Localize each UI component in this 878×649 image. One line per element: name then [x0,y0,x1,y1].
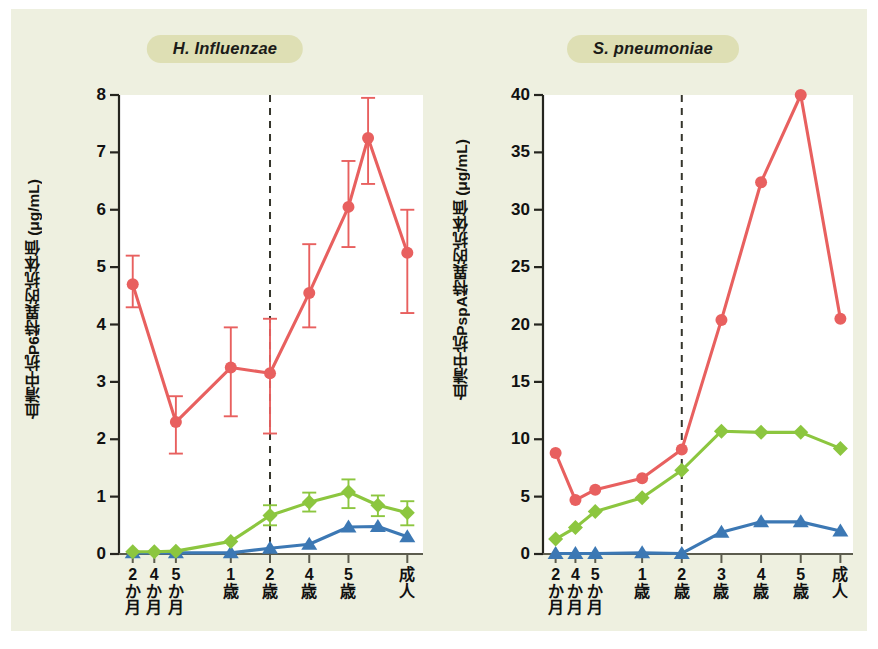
x-tick-label-part: 歳 [223,584,239,601]
x-tick-label: 5か月 [587,567,603,617]
x-tick-label: 成人 [399,567,415,600]
x-tick-label-part: 1 [634,567,650,584]
x-tick-label: 4歳 [301,567,317,600]
x-tick-label-part: 4 [567,567,583,584]
data-point-circle [636,472,648,484]
x-tick-label-part: 歳 [262,584,278,601]
x-tick-label-part: 歳 [674,584,690,601]
data-point-circle [755,176,767,188]
y-tick-label: 40 [500,85,530,105]
x-tick-label-part: 4 [146,567,162,584]
data-point-circle [342,201,354,213]
x-tick-label: 2歳 [262,567,278,600]
data-point-circle [362,132,374,144]
y-tick-label: 4 [80,315,106,335]
x-tick-label-part: 5 [793,567,809,584]
x-tick-label-part: 歳 [793,584,809,601]
data-point-circle [834,313,846,325]
y-tick-label: 8 [80,85,106,105]
x-tick-label: 3歳 [713,567,729,600]
x-tick-label-part: 1 [223,567,239,584]
x-tick-label: 成人 [832,567,848,600]
plot-area-left: 0123456782か月4か月5か月1歳2歳4歳5歳成人 [11,9,439,631]
y-tick-label: 7 [80,142,106,162]
x-tick-label-part: 3 [713,567,729,584]
x-tick-label-part: か [587,584,603,601]
x-tick-label-part: 成 [832,567,848,584]
y-ticks [110,95,119,554]
y-tick-label: 0 [80,544,106,564]
x-tick-label-part: 歳 [340,584,356,601]
y-tick-label: 5 [80,257,106,277]
data-point-circle [676,444,688,456]
x-tick-label-part: か [125,584,141,601]
y-tick-label: 2 [80,429,106,449]
y-tick-label: 0 [500,544,530,564]
panel-s-pneumoniae: S. pneumoniae 血清中抗PspA特異的抗体価 (μg/mL) 051… [439,9,867,631]
y-tick-label: 5 [500,487,530,507]
x-tick-label: 4か月 [567,567,583,617]
y-tick-label: 1 [80,487,106,507]
data-point-circle [303,287,315,299]
y-tick-label: 10 [500,429,530,449]
plot-background [543,95,853,554]
figure-container: H. Influenzae 血清中抗P6特異的抗体価 (μg/mL) 01234… [11,9,867,631]
x-tick-label-part: 月 [125,600,141,617]
data-point-circle [550,447,562,459]
x-tick-label-part: 2 [125,567,141,584]
x-tick-label-part: 5 [168,567,184,584]
x-tick-label-part: か [168,584,184,601]
data-point-circle [795,89,807,101]
x-tick-label-part: 成 [399,567,415,584]
data-point-circle [225,362,237,374]
x-tick-label-part: 月 [168,600,184,617]
x-tick-label: 5歳 [793,567,809,600]
y-tick-label: 35 [500,142,530,162]
x-tick-label-part: 人 [832,584,848,601]
y-tick-label: 15 [500,372,530,392]
x-tick-label: 2か月 [548,567,564,617]
x-tick-label-part: 月 [548,600,564,617]
x-tick-label-part: 2 [262,567,278,584]
x-tick-label-part: 歳 [713,584,729,601]
x-tick-label-part: 4 [301,567,317,584]
x-tick-label-part: 2 [674,567,690,584]
x-tick-label-part: 5 [587,567,603,584]
y-tick-label: 6 [80,200,106,220]
x-tick-label-part: 人 [399,584,415,601]
x-tick-label-part: 5 [340,567,356,584]
chart-svg-hinfluenzae [11,9,439,631]
y-tick-label: 20 [500,315,530,335]
data-point-circle [715,314,727,326]
y-ticks [534,95,543,554]
data-point-circle [589,484,601,496]
x-tick-label: 2歳 [674,567,690,600]
panel-h-influenzae: H. Influenzae 血清中抗P6特異的抗体価 (μg/mL) 01234… [11,9,439,631]
x-tick-label-part: 2 [548,567,564,584]
x-tick-label: 4か月 [146,567,162,617]
data-point-circle [127,278,139,290]
x-tick-label-part: か [567,584,583,601]
x-tick-label: 2か月 [125,567,141,617]
data-point-circle [170,416,182,428]
x-tick-label: 1歳 [223,567,239,600]
x-tick-label: 4歳 [753,567,769,600]
data-point-circle [401,247,413,259]
x-tick-label: 1歳 [634,567,650,600]
x-tick-label-part: か [146,584,162,601]
x-tick-label-part: 歳 [753,584,769,601]
x-tick-label-part: 月 [146,600,162,617]
y-tick-label: 30 [500,200,530,220]
x-tick-label-part: 月 [567,600,583,617]
x-tick-label-part: 月 [587,600,603,617]
data-point-circle [264,367,276,379]
x-tick-label-part: 4 [753,567,769,584]
x-tick-label: 5か月 [168,567,184,617]
x-tick-label-part: 歳 [301,584,317,601]
data-point-circle [569,494,581,506]
x-tick-label-part: か [548,584,564,601]
y-tick-label: 3 [80,372,106,392]
x-tick-label-part: 歳 [634,584,650,601]
y-tick-label: 25 [500,257,530,277]
plot-area-right: 05101520253035402か月4か月5か月1歳2歳3歳4歳5歳成人 [439,9,867,631]
